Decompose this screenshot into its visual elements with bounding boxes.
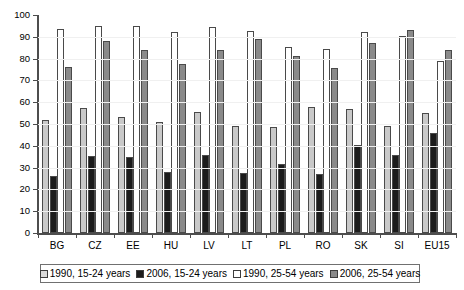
legend-swatch-icon [40,270,48,278]
y-tick-label: 10 [0,206,30,216]
bar-chart: 1009080706050403020100 BGCZEEHULVLTPLROS… [0,0,464,290]
bar [361,32,368,233]
legend-item: 1990, 15-24 years [40,269,131,279]
bar [293,56,300,233]
x-tick-mark [418,233,419,238]
gridline [38,146,456,147]
bar [422,113,429,233]
x-tick-label: HU [164,239,178,253]
bar [308,107,315,233]
gridline [38,59,456,60]
legend-label: 2006, 15-24 years [146,269,227,279]
gridline [38,102,456,103]
gridline [38,168,456,169]
y-tick-mark [33,168,37,169]
y-tick-mark [33,15,37,16]
bar [255,39,262,233]
bar [141,50,148,233]
y-tick-label: 90 [0,32,30,42]
y-tick-label: 100 [0,10,30,20]
y-tick-label: 30 [0,163,30,173]
x-tick-mark [114,233,115,238]
bar [407,30,414,233]
x-axis-labels: BGCZEEHULVLTPLROSKSIEU15 [38,239,456,255]
gridline [38,80,456,81]
bar [346,109,353,233]
legend-label: 2006, 25-54 years [340,269,421,279]
y-tick-mark [33,59,37,60]
chart-legend: 1990, 15-24 years2006, 15-24 years1990, … [40,264,420,283]
y-tick-mark [33,37,37,38]
bar [323,49,330,233]
bar [118,117,125,233]
x-tick-mark [38,233,39,238]
x-tick-mark [228,233,229,238]
bar [331,68,338,233]
x-tick-mark [380,233,381,238]
bar [232,126,239,233]
bar [217,50,224,233]
plot-area: 1009080706050403020100 BGCZEEHULVLTPLROS… [0,0,464,255]
x-tick-label: CZ [88,239,101,253]
y-axis: 1009080706050403020100 [0,0,30,255]
y-tick-label: 50 [0,119,30,129]
y-tick-mark [33,124,37,125]
legend-swatch-icon [136,270,144,278]
x-tick-mark [76,233,77,238]
bar [369,43,376,233]
y-tick-mark [33,80,37,81]
gridline [38,189,456,190]
x-tick-label: EU15 [424,239,449,253]
bar [179,64,186,233]
legend-label: 1990, 25-54 years [243,269,324,279]
x-tick-label: BG [50,239,64,253]
bar [95,26,102,233]
bar [202,155,209,233]
x-tick-label: RO [316,239,331,253]
x-tick-mark [342,233,343,238]
y-tick-label: 40 [0,141,30,151]
x-tick-label: PL [279,239,291,253]
bar [384,126,391,233]
legend-item: 2006, 15-24 years [136,269,227,279]
bar [445,50,452,233]
bar [50,176,57,233]
y-tick-mark [33,211,37,212]
y-tick-label: 70 [0,76,30,86]
bar [156,122,163,233]
bar [399,36,406,233]
bar [194,112,201,233]
x-tick-label: LV [203,239,215,253]
x-tick-mark [190,233,191,238]
gridline [38,37,456,38]
bar [316,174,323,233]
bar [171,32,178,233]
legend-label: 1990, 15-24 years [50,269,131,279]
y-tick-label: 60 [0,97,30,107]
legend-swatch-icon [233,270,241,278]
bar [80,108,87,233]
y-tick-mark [33,233,37,234]
bar [278,164,285,233]
y-tick-mark [33,189,37,190]
x-tick-label: SI [394,239,403,253]
y-tick-mark [33,102,37,103]
bar [430,133,437,233]
legend-item: 2006, 25-54 years [330,269,421,279]
bar [285,47,292,233]
x-tick-mark [152,233,153,238]
y-tick-label: 80 [0,54,30,64]
bar [247,31,254,233]
bar [42,120,49,233]
x-tick-label: LT [242,239,253,253]
x-tick-label: EE [126,239,139,253]
x-tick-mark [304,233,305,238]
bar [133,26,140,233]
y-tick-label: 20 [0,185,30,195]
bar [65,67,72,233]
gridline [38,124,456,125]
bar [437,61,444,233]
legend-swatch-icon [330,270,338,278]
bar [164,172,171,233]
bar [270,127,277,233]
